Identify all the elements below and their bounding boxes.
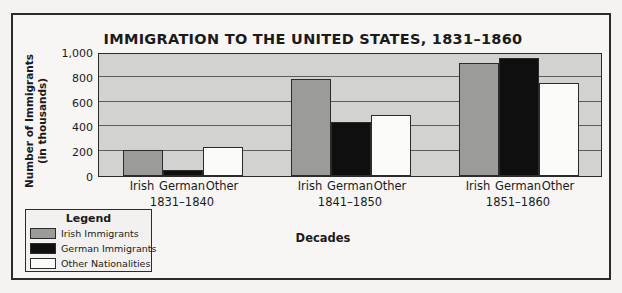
bar-other-1851-1860 <box>539 83 579 176</box>
legend-item: Irish Immigrants <box>30 226 147 240</box>
y-tick-label: 200 <box>49 146 93 159</box>
y-tick-label: 800 <box>49 71 93 84</box>
decade-label: 1851–1860 <box>486 195 550 209</box>
legend-swatch-german <box>30 243 56 254</box>
subcategory-label: German <box>495 179 541 193</box>
bar-other-1831-1840 <box>203 147 243 176</box>
x-axis-decade-labels: 1831–18401841–18501851–1860 <box>98 195 602 211</box>
bar-irish-1851-1860 <box>459 63 499 176</box>
bar-irish-1831-1840 <box>123 150 163 176</box>
bar-irish-1841-1850 <box>291 79 331 176</box>
legend-swatch-other <box>30 258 56 269</box>
bars-layer <box>99 54 601 176</box>
plot-area <box>98 53 602 177</box>
bar-german-1851-1860 <box>499 58 539 176</box>
legend-item: German Immigrants <box>30 241 147 255</box>
decade-label: 1841–1850 <box>318 195 382 209</box>
legend-title: Legend <box>30 212 147 225</box>
subcategory-label: Other <box>206 179 239 193</box>
legend-box: Legend Irish ImmigrantsGerman Immigrants… <box>25 209 152 272</box>
bar-other-1841-1850 <box>371 115 411 176</box>
chart-title: IMMIGRATION TO THE UNITED STATES, 1831–1… <box>13 31 613 47</box>
subcategory-label: Irish <box>466 179 491 193</box>
y-axis-tick-labels: 02004006008001,000 <box>43 53 93 177</box>
chart-screenshot: IMMIGRATION TO THE UNITED STATES, 1831–1… <box>0 0 622 293</box>
legend-item-label: Irish Immigrants <box>61 228 139 239</box>
legend-item: Other Nationalities <box>30 256 147 270</box>
y-tick-label: 1,000 <box>49 47 93 60</box>
legend-item-label: Other Nationalities <box>61 258 150 269</box>
subcategory-label: German <box>159 179 205 193</box>
subcategory-label: Other <box>374 179 407 193</box>
legend-swatch-irish <box>30 228 56 239</box>
y-axis-title-line-1: Number of Immigrants <box>23 41 36 201</box>
bar-german-1831-1840 <box>163 170 203 176</box>
y-tick-label: 600 <box>49 96 93 109</box>
bar-german-1841-1850 <box>331 122 371 176</box>
decade-label: 1831–1840 <box>150 195 214 209</box>
subcategory-label: Irish <box>130 179 155 193</box>
chart-frame: IMMIGRATION TO THE UNITED STATES, 1831–1… <box>11 13 611 280</box>
legend-item-label: German Immigrants <box>61 243 156 254</box>
x-axis-title: Decades <box>133 231 513 245</box>
subcategory-label: German <box>327 179 373 193</box>
y-tick-label: 0 <box>49 171 93 184</box>
y-tick-label: 400 <box>49 121 93 134</box>
legend-items: Irish ImmigrantsGerman ImmigrantsOther N… <box>30 226 147 270</box>
x-axis-subcategory-labels: IrishGermanOtherIrishGermanOtherIrishGer… <box>98 179 602 195</box>
subcategory-label: Other <box>542 179 575 193</box>
subcategory-label: Irish <box>298 179 323 193</box>
